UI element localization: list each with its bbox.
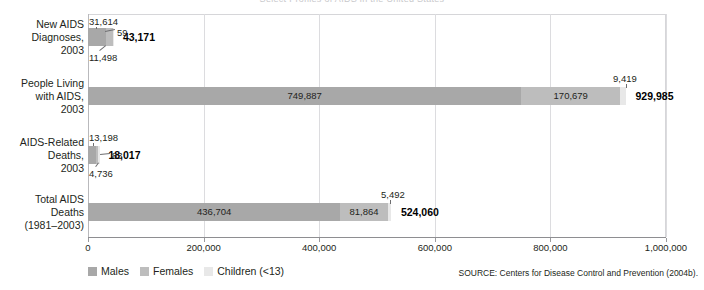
- category-label: People Livingwith AIDS,2003: [0, 77, 84, 116]
- category-label-line: New AIDS: [0, 18, 84, 31]
- plot-area: 749,887170,679436,70481,864: [88, 14, 666, 238]
- category-label-line: Deaths,: [0, 149, 84, 162]
- legend-item-females[interactable]: Females: [140, 265, 193, 277]
- category-label-line: Deaths: [0, 206, 84, 219]
- legend-label: Males: [101, 265, 129, 277]
- x-axis-line: [88, 237, 666, 238]
- legend-item-children-13[interactable]: Children (<13): [204, 265, 284, 277]
- category-label-line: 2003: [0, 44, 84, 57]
- legend-swatch-icon: [88, 267, 97, 276]
- callout-males-row0: 31,614: [89, 16, 118, 27]
- legend: MalesFemalesChildren (<13): [88, 265, 284, 277]
- bar-total-label: 43,171: [123, 28, 155, 46]
- chart-title-clipped: Select Profiles of AIDS in the United St…: [0, 0, 704, 8]
- category-label-line: Total AIDS: [0, 193, 84, 206]
- callout-females-row2: 4,736: [89, 168, 113, 179]
- legend-label: Children (<13): [217, 265, 284, 277]
- category-label-line: 2003: [0, 162, 84, 175]
- segment-value-label: 170,679: [521, 87, 620, 105]
- plot-border-top: [88, 14, 666, 15]
- legend-item-males[interactable]: Males: [88, 265, 129, 277]
- category-label-line: 2003: [0, 103, 84, 116]
- legend-swatch-icon: [140, 267, 149, 276]
- gridline: [550, 14, 551, 237]
- category-label: New AIDSDiagnoses,2003: [0, 18, 84, 57]
- bar-total-label: 524,060: [401, 203, 439, 221]
- x-axis-tick-label: 800,000: [533, 242, 567, 253]
- x-axis-tick-label: 400,000: [302, 242, 336, 253]
- category-label-line: (1981–2003): [0, 219, 84, 232]
- callout-females-row0: 11,498: [89, 52, 117, 63]
- callout-children-row1: 9,419: [613, 73, 637, 84]
- x-axis-tick-label: 200,000: [186, 242, 220, 253]
- category-label-line: Diagnoses,: [0, 31, 84, 44]
- callout-children-row0: 59: [117, 27, 128, 38]
- segment-value-label: 436,704: [88, 203, 340, 221]
- x-axis-tick-label: 1,000,000: [645, 242, 687, 253]
- source-note: SOURCE: Centers for Disease Control and …: [458, 268, 698, 278]
- x-axis-tick-label: 0: [85, 242, 90, 253]
- bar-segment-children: [620, 87, 625, 105]
- x-axis-tick-label: 600,000: [418, 242, 452, 253]
- legend-swatch-icon: [204, 267, 213, 276]
- category-label-line: People Living: [0, 77, 84, 90]
- segment-value-label: 81,864: [340, 203, 387, 221]
- leader-line: [390, 200, 391, 204]
- leader-line: [96, 27, 97, 29]
- category-label-line: AIDS-Related: [0, 136, 84, 149]
- bar-segment-children: [388, 203, 391, 221]
- bar-segment-males: [88, 146, 96, 164]
- leader-line: [93, 143, 94, 146]
- category-label: AIDS-RelatedDeaths,2003: [0, 136, 84, 175]
- callout-children-row2: 83: [112, 150, 123, 161]
- gridline: [666, 14, 667, 237]
- leader-line: [626, 84, 627, 88]
- bar-total-label: 929,985: [636, 87, 674, 105]
- callout-males-row2: 13,198: [89, 132, 118, 143]
- callout-children-row3: 5,492: [381, 189, 405, 200]
- category-label-line: with AIDS,: [0, 90, 84, 103]
- category-label: Total AIDSDeaths(1981–2003): [0, 193, 84, 232]
- bar-segment-children: [113, 28, 114, 46]
- legend-label: Females: [153, 265, 193, 277]
- segment-value-label: 749,887: [88, 87, 521, 105]
- bar-segment-males: [88, 28, 106, 46]
- aids-profiles-chart: Select Profiles of AIDS in the United St…: [0, 0, 704, 290]
